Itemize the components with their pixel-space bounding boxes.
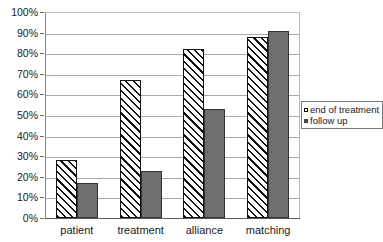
y-axis-tick-label: 50% xyxy=(0,110,38,121)
y-axis-tick-mark xyxy=(40,33,44,34)
y-axis-tick-mark xyxy=(40,53,44,54)
y-axis-tick-mark xyxy=(40,136,44,137)
y-axis-tick-mark xyxy=(40,74,44,75)
y-axis-tick-label: 70% xyxy=(0,68,38,79)
bar-treatment-end-of-treatment[interactable] xyxy=(120,80,141,218)
bar-matching-follow-up[interactable] xyxy=(268,31,289,218)
legend-label: end of treatment xyxy=(310,104,379,115)
bar-group xyxy=(236,12,300,218)
bar-patient-end-of-treatment[interactable] xyxy=(56,160,77,218)
y-axis-tick-mark xyxy=(40,218,44,219)
hatch-swatch-icon xyxy=(304,108,308,112)
bar-group xyxy=(45,12,109,218)
bar-alliance-follow-up[interactable] xyxy=(204,109,225,218)
x-axis-tick-label: alliance xyxy=(173,224,237,236)
y-axis-tick-label: 60% xyxy=(0,89,38,100)
y-axis-tick-mark xyxy=(40,94,44,95)
legend-label: follow up xyxy=(310,115,348,126)
y-axis-tick-label: 90% xyxy=(0,27,38,38)
bar-alliance-end-of-treatment[interactable] xyxy=(183,49,204,218)
y-axis-tick-mark xyxy=(40,156,44,157)
legend-item-follow-up[interactable]: follow up xyxy=(304,115,379,126)
y-axis-tick-label: 40% xyxy=(0,130,38,141)
x-axis-tick-label: treatment xyxy=(109,224,173,236)
x-axis-tick-label: patient xyxy=(45,224,109,236)
bar-groups xyxy=(45,12,300,218)
bar-group xyxy=(109,12,173,218)
y-axis-tick-label: 10% xyxy=(0,192,38,203)
y-axis-tick-mark xyxy=(40,197,44,198)
x-axis-baseline xyxy=(45,218,300,219)
x-axis-tick-label: matching xyxy=(236,224,300,236)
y-axis-tick-label: 20% xyxy=(0,171,38,182)
x-axis-labels: patienttreatmentalliancematching xyxy=(45,224,300,236)
chart-legend[interactable]: end of treatment follow up xyxy=(301,101,383,129)
y-axis-tick-mark xyxy=(40,177,44,178)
y-axis-tick-label: 100% xyxy=(0,7,38,18)
bar-patient-follow-up[interactable] xyxy=(77,183,98,218)
bar-group xyxy=(173,12,237,218)
legend-item-end-of-treatment[interactable]: end of treatment xyxy=(304,104,379,115)
solid-swatch-icon xyxy=(304,119,308,123)
y-axis-tick-label: 0% xyxy=(0,213,38,224)
y-axis-tick-label: 30% xyxy=(0,151,38,162)
y-axis-tick-mark xyxy=(40,115,44,116)
y-axis-tick-label: 80% xyxy=(0,48,38,59)
bar-treatment-follow-up[interactable] xyxy=(141,171,162,218)
y-axis-tick-mark xyxy=(40,12,44,13)
bar-matching-end-of-treatment[interactable] xyxy=(247,37,268,218)
